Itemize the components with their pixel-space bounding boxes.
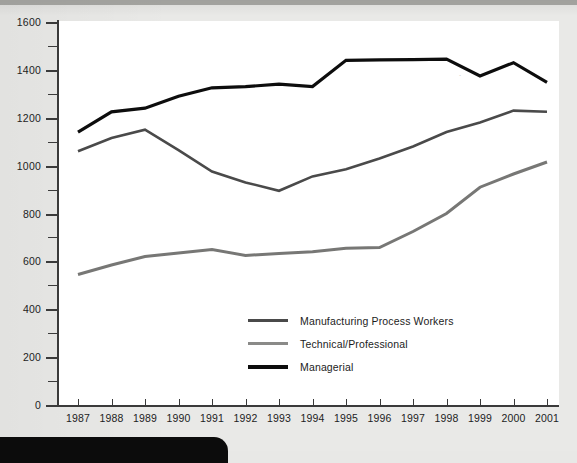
x-axis-line [57,405,559,407]
x-axis-tick-label: 1996 [367,412,391,424]
y-axis-tick-label: 200 [23,351,41,363]
y-axis-tick-label: 0 [35,399,41,411]
x-axis-tick-label: 1991 [200,412,224,424]
y-axis-line [57,20,59,407]
x-axis-tick [145,399,146,406]
y-axis-minor-tick [48,94,57,95]
y-axis-tick-label: 800 [23,208,41,220]
y-axis-tick [46,261,57,263]
chart-legend: Manufacturing Process WorkersTechnical/P… [248,309,478,378]
legend-color-swatch [248,365,288,369]
legend-item-label: Managerial [300,361,353,373]
y-axis-tick-label: 1200 [17,112,41,124]
legend-item: Technical/Professional [248,332,478,355]
x-axis-tick [212,399,213,406]
x-axis-tick-label: 1998 [434,412,458,424]
y-axis-tick-label: 1400 [17,64,41,76]
legend-item: Manufacturing Process Workers [248,309,478,332]
y-axis-tick [46,405,57,407]
y-axis-tick [46,70,57,72]
y-axis-minor-tick [48,46,57,47]
x-axis-tick [447,399,448,406]
x-axis-tick-label: 1987 [66,412,90,424]
x-axis-tick-label: 1994 [300,412,324,424]
x-axis-tick-label: 1989 [133,412,157,424]
x-axis-tick-label: 1993 [267,412,291,424]
y-axis-tick [46,166,57,168]
y-axis-tick [46,118,57,120]
legend-color-swatch [248,319,288,322]
legend-item: Managerial [248,355,478,378]
page-bottom-bar [0,437,228,463]
y-axis-tick [46,357,57,359]
x-axis-tick [246,399,247,406]
y-axis-tick [46,214,57,216]
x-axis-tick [78,399,79,406]
x-axis-tick-label: 2001 [535,412,559,424]
y-axis-tick-label: 1600 [17,16,41,28]
y-axis-minor-tick [48,285,57,286]
y-axis-minor-tick [48,381,57,382]
y-axis-minor-tick [48,190,57,191]
y-axis-tick-label: 1000 [17,160,41,172]
x-axis-tick [413,399,414,406]
x-axis-tick [380,399,381,406]
legend-item-label: Manufacturing Process Workers [300,315,454,327]
x-axis-tick-label: 1995 [334,412,358,424]
legend-color-swatch [248,342,288,345]
x-axis-tick-label: 1990 [166,412,190,424]
y-axis-minor-tick [48,333,57,334]
x-axis-tick [179,399,180,406]
x-axis-tick [346,399,347,406]
x-axis-tick-label: 1997 [401,412,425,424]
x-axis-tick [112,399,113,406]
x-axis-tick [279,399,280,406]
x-axis-tick-label: 1988 [99,412,123,424]
x-axis-tick [313,399,314,406]
x-axis-tick [547,399,548,406]
x-axis-tick-label: 1999 [468,412,492,424]
y-axis-tick [46,309,57,311]
x-axis-tick [514,399,515,406]
x-axis-tick [480,399,481,406]
y-axis-minor-tick [48,142,57,143]
y-axis-minor-tick [48,237,57,238]
y-axis-tick-label: 600 [23,255,41,267]
x-axis-tick-label: 2000 [501,412,525,424]
y-axis-tick-label: 400 [23,303,41,315]
y-axis-tick [46,22,57,24]
legend-item-label: Technical/Professional [300,338,408,350]
x-axis-tick-label: 1992 [233,412,257,424]
scan-speck: ´ [459,75,464,81]
